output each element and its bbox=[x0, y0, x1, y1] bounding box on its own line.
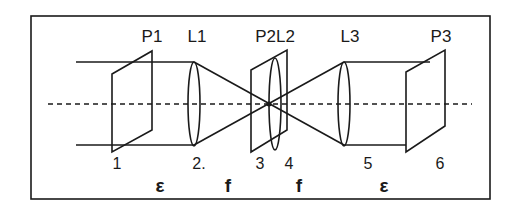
position-1: 1 bbox=[113, 156, 122, 172]
position-2: 2. bbox=[192, 156, 205, 172]
position-6: 6 bbox=[436, 156, 445, 172]
position-4: 4 bbox=[285, 156, 294, 172]
label-l3: L3 bbox=[341, 28, 360, 45]
focal-point bbox=[267, 102, 272, 107]
plane-p1 bbox=[112, 51, 152, 152]
optical-diagram: P1 L1 P2L2 L3 P3 1 2. 3 4 5 6 ε f f ε bbox=[0, 0, 514, 214]
label-p3: P3 bbox=[431, 28, 452, 45]
distance-f-2: f bbox=[296, 176, 302, 195]
label-p2l2: P2L2 bbox=[255, 28, 295, 45]
distance-epsilon-1: ε bbox=[155, 176, 164, 195]
label-p1: P1 bbox=[142, 28, 163, 45]
distance-f-1: f bbox=[225, 176, 231, 195]
label-l1: L1 bbox=[188, 28, 207, 45]
position-5: 5 bbox=[364, 156, 373, 172]
position-3: 3 bbox=[256, 156, 265, 172]
distance-epsilon-2: ε bbox=[379, 176, 388, 195]
plane-p3 bbox=[406, 50, 445, 152]
